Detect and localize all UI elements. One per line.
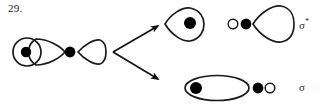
antibonding-orbital-group xyxy=(165,6,294,42)
reactant-orbital-group xyxy=(13,38,106,66)
sigma-star-label: σ* xyxy=(299,17,309,31)
antibonding-open-circle xyxy=(228,19,238,29)
antibonding-filled-circle xyxy=(241,19,252,30)
bonding-open-circle xyxy=(265,83,275,93)
antibonding-nucleus-dot xyxy=(184,17,196,29)
nucleus-dot-middle xyxy=(65,47,76,58)
p-lobe-right-orbital xyxy=(29,39,66,65)
orbital-diagram xyxy=(0,0,321,109)
p-lobe-left-orbital xyxy=(78,40,106,64)
bonding-orbital-group xyxy=(185,76,275,101)
bonding-filled-circle xyxy=(253,83,264,94)
sigma-label: σ xyxy=(299,81,305,93)
antibonding-lobe-orbital-2 xyxy=(253,6,294,42)
arrow-to-bonding xyxy=(113,52,158,79)
arrow-to-antibonding xyxy=(113,26,158,52)
sigma-star-superscript: * xyxy=(305,17,309,26)
reaction-arrows xyxy=(113,26,158,79)
nucleus-dot-left xyxy=(21,47,31,57)
bonding-nucleus-dot xyxy=(190,82,202,94)
